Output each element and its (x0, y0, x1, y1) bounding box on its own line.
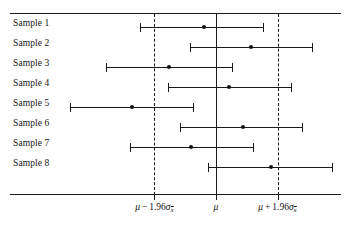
sample-mean-point (202, 25, 206, 29)
interval-lower-cap (190, 43, 191, 52)
interval-row: Sample 7 (0, 135, 351, 155)
interval-row: Sample 1 (0, 15, 351, 35)
axis-tick-lower-limit (154, 194, 155, 200)
sample-label: Sample 6 (13, 118, 49, 128)
sample-label: Sample 1 (13, 18, 49, 28)
sample-mean-point (167, 65, 171, 69)
sample-mean-point (227, 85, 231, 89)
sample-label: Sample 4 (13, 78, 49, 88)
sample-mean-point (189, 145, 193, 149)
sample-mean-point (241, 125, 245, 129)
axis-tick-mean (216, 194, 217, 200)
interval-upper-cap (193, 103, 194, 112)
axis-label-mean: μ (214, 202, 219, 212)
axis-label-lower-limit: μ − 1.96σx (135, 202, 173, 214)
confidence-interval-bar (70, 107, 194, 108)
confidence-interval-bar (180, 127, 303, 128)
confidence-interval-bar (130, 147, 254, 148)
confidence-interval-figure: Sample 1Sample 2Sample 3Sample 4Sample 5… (0, 0, 351, 232)
interval-lower-cap (180, 123, 181, 132)
interval-row: Sample 5 (0, 95, 351, 115)
interval-row: Sample 6 (0, 115, 351, 135)
interval-row: Sample 3 (0, 55, 351, 75)
interval-upper-cap (302, 123, 303, 132)
confidence-interval-bar (208, 167, 333, 168)
confidence-interval-bar (140, 27, 264, 28)
sample-mean-point (269, 165, 273, 169)
interval-lower-cap (106, 63, 107, 72)
sample-label: Sample 3 (13, 58, 49, 68)
confidence-interval-bar (190, 47, 313, 48)
sample-label: Sample 8 (13, 158, 49, 168)
interval-upper-cap (291, 83, 292, 92)
sample-label: Sample 7 (13, 138, 49, 148)
interval-upper-cap (232, 63, 233, 72)
confidence-interval-bar (106, 67, 233, 68)
sample-mean-point (249, 45, 253, 49)
sample-label: Sample 2 (13, 38, 49, 48)
interval-upper-cap (312, 43, 313, 52)
interval-row: Sample 8 (0, 155, 351, 175)
interval-upper-cap (253, 143, 254, 152)
interval-row: Sample 4 (0, 75, 351, 95)
axis-tick-upper-limit (278, 194, 279, 200)
interval-upper-cap (332, 163, 333, 172)
interval-lower-cap (208, 163, 209, 172)
interval-lower-cap (130, 143, 131, 152)
figure-bottom-rule (10, 194, 341, 195)
sample-mean-point (130, 105, 134, 109)
interval-lower-cap (70, 103, 71, 112)
confidence-interval-bar (168, 87, 292, 88)
figure-top-rule (10, 13, 341, 14)
sample-label: Sample 5 (13, 98, 49, 108)
axis-label-upper-limit: μ + 1.96σx (258, 202, 296, 214)
interval-lower-cap (168, 83, 169, 92)
interval-upper-cap (263, 23, 264, 32)
interval-lower-cap (140, 23, 141, 32)
interval-row: Sample 2 (0, 35, 351, 55)
